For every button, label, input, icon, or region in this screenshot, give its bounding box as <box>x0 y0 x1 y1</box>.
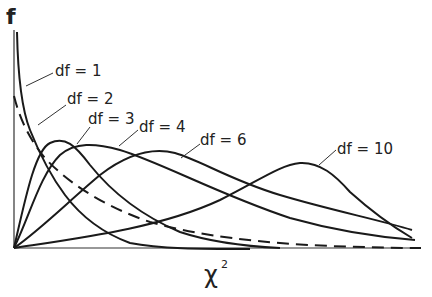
label-df4: df = 4 <box>139 118 185 136</box>
curve-df2 <box>14 96 421 248</box>
leader-df1 <box>26 73 53 86</box>
label-df3: df = 3 <box>88 110 134 128</box>
chi-square-chart: f χ 2 df = 1 df = 2 df = 3 df = 4 df = 6… <box>0 0 432 297</box>
leader-df4 <box>119 130 138 146</box>
leader-df3 <box>77 127 90 144</box>
x-axis-label-superscript: 2 <box>221 258 228 271</box>
leader-df6 <box>181 144 200 158</box>
y-axis-label: f <box>6 4 16 29</box>
x-axis-label: χ <box>204 261 218 289</box>
label-df2: df = 2 <box>67 90 113 108</box>
leader-df2 <box>38 105 66 125</box>
curve-df6 <box>14 151 412 248</box>
label-df6: df = 6 <box>200 131 246 149</box>
label-df10: df = 10 <box>337 140 393 158</box>
curve-df3 <box>14 141 280 248</box>
leader-df10 <box>319 150 336 165</box>
label-df1: df = 1 <box>55 62 101 80</box>
